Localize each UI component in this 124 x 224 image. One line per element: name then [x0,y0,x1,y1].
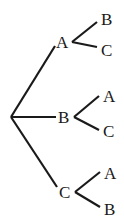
edge-root-c [11,117,57,187]
edge-root-a [11,46,55,117]
node-label-l2-c-a: A [104,165,116,182]
node-label-l1-c: C [59,184,70,201]
node-label-l2-c-b: B [104,201,115,218]
node-label-l2-a-b: B [101,11,112,28]
edge-b-a [74,96,99,117]
node-label-l1-b: B [58,109,69,126]
tree-diagram: ABCBCACAB [0,0,124,224]
edge-c-a [75,172,100,192]
edge-a-c [72,42,97,47]
edge-a-b [72,22,97,42]
node-label-l2-a-c: C [101,42,112,59]
node-label-l2-b-c: C [103,123,114,140]
node-label-l1-a: A [56,34,68,51]
node-label-l2-b-a: A [103,88,115,105]
edge-c-b [75,192,100,207]
edge-b-c [74,117,99,130]
